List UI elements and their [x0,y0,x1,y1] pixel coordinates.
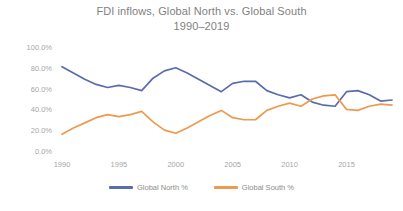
chart-legend: Global North %Global South % [0,183,403,192]
chart-title-line1: FDI inflows, Global North vs. Global Sou… [96,5,306,17]
plot-lines [0,42,403,167]
x-axis-ticks: 199019952000200520102015 [0,160,403,174]
chart-title: FDI inflows, Global North vs. Global Sou… [0,4,403,33]
x-axis-tick-label: 2005 [224,160,241,169]
x-axis-tick-label: 2000 [167,160,184,169]
x-axis-tick-label: 2010 [281,160,298,169]
x-axis: 199019952000200520102015 [0,160,403,174]
legend-label: Global North % [137,183,188,192]
legend-item[interactable]: Global North % [109,183,188,192]
chart-title-line2: 1990–2019 [0,19,403,34]
legend-swatch-icon [214,186,238,188]
series-line [62,67,392,107]
chart-container: FDI inflows, Global North vs. Global Sou… [0,0,403,211]
legend-swatch-icon [109,186,133,188]
legend-item[interactable]: Global South % [214,183,294,192]
x-axis-tick-label: 1990 [54,160,71,169]
series-line [62,95,392,135]
plot-area: 100.0%80.0%60.0%40.0%20.0%0.0% [0,42,403,167]
x-axis-tick-label: 1995 [111,160,128,169]
x-axis-tick-label: 2015 [338,160,355,169]
legend-label: Global South % [242,183,294,192]
